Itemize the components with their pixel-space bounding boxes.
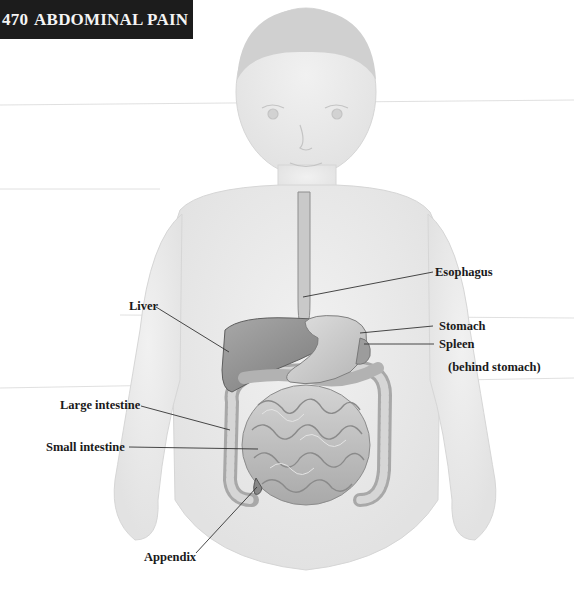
label-large-intestine: Large intestine (60, 398, 140, 412)
label-esophagus: Esophagus (435, 265, 493, 279)
label-stomach: Stomach (439, 319, 486, 333)
label-small-intestine: Small intestine (46, 440, 125, 454)
label-liver: Liver (129, 299, 158, 313)
label-spleen-note: (behind stomach) (448, 360, 541, 374)
label-spleen: Spleen (439, 337, 474, 351)
esophagus-organ (298, 192, 310, 322)
label-appendix: Appendix (144, 550, 196, 564)
anatomy-illustration (0, 0, 574, 594)
